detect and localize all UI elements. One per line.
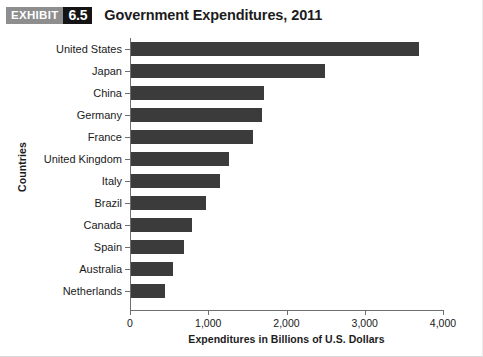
- category-label: Italy: [10, 170, 130, 192]
- y-axis-tick: [125, 225, 130, 226]
- category-label: France: [10, 126, 130, 148]
- x-axis-tick-label: 4,000: [413, 317, 473, 329]
- bar: [131, 108, 262, 122]
- y-axis-tick: [125, 115, 130, 116]
- x-axis-tick: [130, 310, 131, 315]
- bar-row: United States: [0, 38, 483, 60]
- bar-row: China: [0, 82, 483, 104]
- chart-plot-area: Countries United StatesJapanChinaGermany…: [0, 30, 483, 357]
- y-axis-tick: [125, 159, 130, 160]
- y-axis-tick: [125, 93, 130, 94]
- bar-row: France: [0, 126, 483, 148]
- category-label: Spain: [10, 236, 130, 258]
- y-axis-tick: [125, 291, 130, 292]
- page-title: Government Expenditures, 2011: [104, 7, 322, 23]
- bar-row: Germany: [0, 104, 483, 126]
- category-label: United Kingdom: [10, 148, 130, 170]
- figure-header: EXHIBIT 6.5 Government Expenditures, 201…: [0, 0, 483, 30]
- bar-row: Japan: [0, 60, 483, 82]
- y-axis-tick: [125, 203, 130, 204]
- y-axis-tick: [125, 269, 130, 270]
- exhibit-figure: EXHIBIT 6.5 Government Expenditures, 201…: [0, 0, 483, 357]
- bar-row: Brazil: [0, 192, 483, 214]
- exhibit-badge: EXHIBIT 6.5: [6, 7, 92, 24]
- exhibit-label: EXHIBIT: [6, 7, 63, 24]
- bar-row: United Kingdom: [0, 148, 483, 170]
- exhibit-number: 6.5: [63, 7, 92, 24]
- category-label: United States: [10, 38, 130, 60]
- category-label: Japan: [10, 60, 130, 82]
- bar: [131, 130, 253, 144]
- category-label: Germany: [10, 104, 130, 126]
- x-axis-tick-label: 2,000: [257, 317, 317, 329]
- x-axis-tick-label: 3,000: [335, 317, 395, 329]
- category-label: Netherlands: [10, 280, 130, 302]
- bar-row: Netherlands: [0, 280, 483, 302]
- category-label: China: [10, 82, 130, 104]
- x-axis-tick: [287, 310, 288, 315]
- bar: [131, 284, 165, 298]
- bar: [131, 218, 192, 232]
- bar: [131, 240, 184, 254]
- y-axis-tick: [125, 71, 130, 72]
- category-label: Canada: [10, 214, 130, 236]
- bar: [131, 174, 220, 188]
- bar-row: Australia: [0, 258, 483, 280]
- x-axis-tick: [365, 310, 366, 315]
- bar: [131, 86, 264, 100]
- category-label: Australia: [10, 258, 130, 280]
- x-axis-tick-label: 1,000: [178, 317, 238, 329]
- category-label: Brazil: [10, 192, 130, 214]
- bar-row: Spain: [0, 236, 483, 258]
- bar: [131, 64, 325, 78]
- x-axis-label: Expenditures in Billions of U.S. Dollars: [130, 333, 443, 345]
- y-axis-tick: [125, 247, 130, 248]
- y-axis-tick: [125, 181, 130, 182]
- bar: [131, 196, 206, 210]
- x-axis-tick-label: 0: [100, 317, 160, 329]
- bar: [131, 262, 173, 276]
- bar: [131, 152, 229, 166]
- bar: [131, 42, 419, 56]
- bar-row: Italy: [0, 170, 483, 192]
- y-axis-tick: [125, 137, 130, 138]
- x-axis-tick: [208, 310, 209, 315]
- y-axis-tick: [125, 49, 130, 50]
- x-axis-tick: [443, 310, 444, 315]
- bar-row: Canada: [0, 214, 483, 236]
